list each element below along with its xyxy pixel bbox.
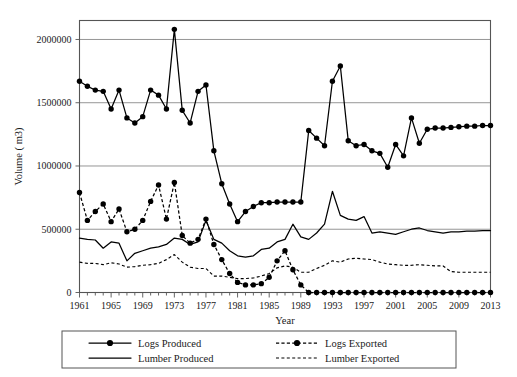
data-point-marker [211,148,216,153]
data-point-marker [85,218,90,223]
data-point-marker [480,123,485,128]
data-point-marker [488,290,493,295]
data-point-marker [361,290,366,295]
data-point-marker [108,219,113,224]
data-point-marker [440,290,445,295]
data-point-marker [124,229,129,234]
series-logs-produced [77,27,493,225]
data-point-marker [377,151,382,156]
data-point-marker [108,106,113,111]
data-point-marker [306,128,311,133]
data-point-marker [235,280,240,285]
data-point-marker [266,275,271,280]
data-point-marker [409,115,414,120]
data-point-marker [464,290,469,295]
data-point-marker [425,290,430,295]
legend-item-lumber-produced[interactable]: Lumber Produced [89,353,214,364]
data-point-marker [314,135,319,140]
data-point-marker [227,271,232,276]
data-point-marker [227,201,232,206]
data-point-marker [472,123,477,128]
legend-item-label: Lumber Exported [325,353,400,364]
chart-container: 0500000100000015000002000000 19611965196… [0,0,517,377]
data-point-marker [116,206,121,211]
data-point-marker [472,290,477,295]
x-tick-label: 1961 [70,300,90,311]
legend-item-label: Logs Exported [325,338,388,349]
data-point-marker [417,290,422,295]
data-point-marker [448,290,453,295]
data-point-marker [274,199,279,204]
data-point-marker [132,227,137,232]
data-point-marker [203,82,208,87]
x-tick-label: 1965 [101,300,121,311]
x-tick-label: 1981 [228,300,248,311]
x-tick-label: 1997 [354,300,374,311]
data-point-marker [156,92,161,97]
data-point-marker [369,148,374,153]
data-point-marker [432,125,437,130]
x-tick-label: 1969 [133,300,153,311]
data-point-marker [282,199,287,204]
data-point-marker [243,282,248,287]
x-tick-label: 1985 [259,300,279,311]
line-chart: 0500000100000015000002000000 19611965196… [0,0,517,377]
data-point-marker [148,87,153,92]
x-tick-label: 1973 [164,300,184,311]
data-point-marker [322,143,327,148]
y-tick-label: 0 [67,287,72,298]
data-point-marker [464,123,469,128]
series-path [80,29,491,221]
data-point-marker [401,153,406,158]
data-point-marker [259,281,264,286]
legend-item-logs-produced[interactable]: Logs Produced [89,338,202,349]
data-point-marker [346,138,351,143]
data-point-marker [219,257,224,262]
data-point-marker [385,290,390,295]
y-tick-label: 2000000 [37,34,72,45]
legend-item-label: Logs Produced [138,338,202,349]
data-point-marker [187,120,192,125]
data-point-marker [377,290,382,295]
data-point-marker [93,209,98,214]
series-lumber-exported [80,255,491,279]
data-point-marker [338,63,343,68]
x-tick-label: 1977 [196,300,216,311]
data-series-layer [77,27,493,296]
x-tick-label: 2005 [417,300,437,311]
data-point-marker [353,143,358,148]
y-tick-label: 1000000 [37,160,72,171]
y-tick-label: 500000 [42,224,72,235]
x-tick-label: 1993 [322,300,342,311]
data-point-marker [369,290,374,295]
y-tick-label: 1500000 [37,97,72,108]
y-axis-tick-labels: 0500000100000015000002000000 [37,34,72,298]
data-point-marker [77,79,82,84]
legend-item-lumber-exported[interactable]: Lumber Exported [276,353,400,364]
data-point-marker [132,120,137,125]
x-tick-label: 2001 [386,300,406,311]
data-point-marker [456,290,461,295]
data-point-marker [116,87,121,92]
series-logs-exported [77,180,493,295]
data-point-marker [243,209,248,214]
data-point-marker [393,142,398,147]
data-point-marker [322,290,327,295]
data-point-marker [298,282,303,287]
data-point-marker [330,290,335,295]
data-point-marker [314,290,319,295]
data-point-marker [385,165,390,170]
data-point-marker [101,201,106,206]
data-point-marker [172,180,177,185]
legend-item-logs-exported[interactable]: Logs Exported [276,338,388,349]
legend-swatch-marker [294,340,300,346]
x-axis-title: Year [275,315,295,326]
data-point-marker [448,125,453,130]
data-point-marker [172,27,177,32]
data-point-marker [440,125,445,130]
data-point-marker [266,200,271,205]
data-point-marker [259,200,264,205]
data-point-marker [330,79,335,84]
data-point-marker [346,290,351,295]
data-point-marker [164,106,169,111]
